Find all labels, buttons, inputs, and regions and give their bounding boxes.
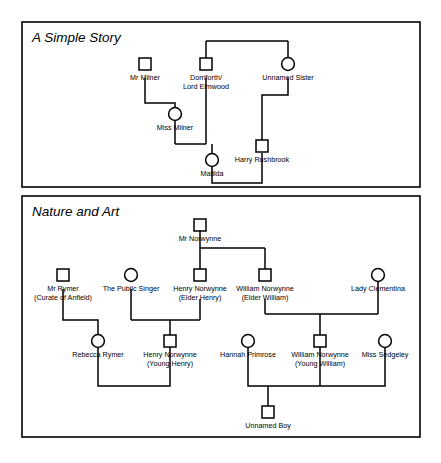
genogram-canvas: A Simple Story Mr Milner xyxy=(0,0,441,463)
node-label-william-young-line2: (Young William) xyxy=(295,359,345,368)
node-mr-norwynne[interactable] xyxy=(194,219,206,231)
node-the-public-singer[interactable] xyxy=(125,269,138,282)
node-label-mr-rymer-line2: (Curate of Anfield) xyxy=(34,293,92,302)
node-mr-rymer[interactable] xyxy=(57,269,69,281)
node-label-mr-milner: Mr Milner xyxy=(130,73,161,82)
node-miss-milner[interactable] xyxy=(169,108,182,121)
node-label-rebecca-rymer: Rebecca Rymer xyxy=(72,350,124,359)
node-mr-milner[interactable] xyxy=(139,58,151,70)
panel-title-a-simple-story: A Simple Story xyxy=(31,30,122,45)
node-unnamed-boy[interactable] xyxy=(262,406,274,418)
panel-frame-nature-and-art xyxy=(22,196,420,437)
node-label-mr-norwynne: Mr Norwynne xyxy=(179,234,222,243)
node-label-unnamed-sister: Unnamed Sister xyxy=(262,73,314,82)
node-label-henry-elder-line1: Henry Norwynne xyxy=(173,284,227,293)
node-label-william-elder-line2: (Elder William) xyxy=(242,293,289,302)
node-rebecca-rymer[interactable] xyxy=(92,335,105,348)
node-william-norwynne-elder[interactable] xyxy=(259,269,271,281)
node-unnamed-sister[interactable] xyxy=(282,58,295,71)
node-henry-norwynne-elder[interactable] xyxy=(194,269,206,281)
node-lady-clementina[interactable] xyxy=(372,269,385,282)
node-label-william-young-line1: William Norwynne xyxy=(291,350,349,359)
node-william-norwynne-young[interactable] xyxy=(314,335,326,347)
node-label-lady-clementina: Lady Clementina xyxy=(351,284,405,293)
node-label-miss-sedgeley: Miss Sedgeley xyxy=(362,350,409,359)
node-label-dorriforth-line2: Lord Elmwood xyxy=(183,82,229,91)
panel-title-nature-and-art: Nature and Art xyxy=(32,204,121,219)
genogram-figure: A Simple Story Mr Milner xyxy=(0,0,441,463)
panel-frame-a-simple-story xyxy=(22,22,420,187)
node-harry-rushbrook[interactable] xyxy=(256,140,268,152)
node-hannah-primrose[interactable] xyxy=(242,335,255,348)
node-label-hannah-primrose: Hannah Primrose xyxy=(220,350,276,359)
node-label-mr-rymer-line1: Mr Rymer xyxy=(47,284,79,293)
node-label-matilda: Matilda xyxy=(200,169,223,178)
node-label-miss-milner: Miss Milner xyxy=(157,123,194,132)
node-miss-sedgeley[interactable] xyxy=(379,335,392,348)
node-label-henry-elder-line2: (Elder Henry) xyxy=(179,293,222,302)
node-henry-norwynne-young[interactable] xyxy=(164,335,176,347)
node-dorriforth[interactable] xyxy=(200,58,212,70)
node-label-henry-young-line1: Henry Norwynne xyxy=(143,350,197,359)
node-label-the-public-singer: The Public Singer xyxy=(103,284,160,293)
node-label-dorriforth-line1: Dorriforth/ xyxy=(190,73,222,82)
node-label-unnamed-boy: Unnamed Boy xyxy=(245,421,291,430)
node-label-william-elder-line1: William Norwynne xyxy=(236,284,294,293)
node-label-harry-rushbrook: Harry Rushbrook xyxy=(235,155,290,164)
node-label-henry-young-line2: (Young Henry) xyxy=(147,359,193,368)
node-matilda[interactable] xyxy=(206,154,219,167)
